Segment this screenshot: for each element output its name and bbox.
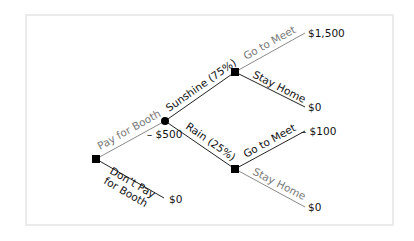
rain-decision-node (231, 165, 239, 173)
label-rain-go-to-meet: Go to Meet (241, 121, 297, 160)
payoff-sun-stay: $0 (308, 101, 321, 113)
label-rain-stay-home: Stay Home (251, 165, 308, 202)
label-sun-stay-home: Stay Home (251, 68, 308, 105)
root-decision-node (92, 155, 100, 163)
chance-node (161, 117, 169, 125)
payoff-sun-go: $1,500 (308, 27, 345, 39)
decision-tree: Pay for Booth – $500 Don’t Pay for Booth… (0, 0, 414, 241)
label-booth-cost: – $500 (147, 128, 182, 140)
payoff-dont-pay: $0 (169, 193, 182, 205)
payoff-rain-stay: $0 (308, 201, 321, 213)
payoff-rain-go: – $100 (301, 125, 336, 137)
label-sun-go-to-meet: Go to Meet (241, 23, 297, 62)
label-rain: Rain (25%) (184, 120, 238, 163)
label-sunshine: Sunshine (75%) (163, 56, 238, 113)
